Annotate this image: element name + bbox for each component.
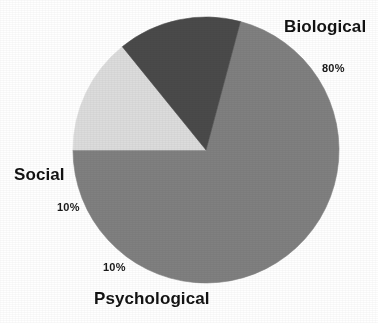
pie-slice-group (73, 17, 339, 283)
slice-percent-psychological: 10% (103, 262, 126, 273)
pie-chart: Biological 80% Social 10% Psychological … (0, 0, 378, 323)
slice-label-psychological: Psychological (94, 290, 210, 307)
slice-percent-social: 10% (57, 202, 80, 213)
slice-label-biological: Biological (284, 18, 366, 35)
slice-label-social: Social (14, 166, 65, 183)
slice-percent-biological: 80% (322, 63, 345, 74)
pie-chart-canvas (0, 0, 378, 323)
